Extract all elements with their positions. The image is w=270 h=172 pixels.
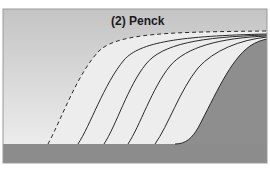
diagram-title: (2) Penck: [111, 14, 164, 28]
penck-slope-diagram: (2) Penck: [0, 0, 270, 172]
ground: [3, 144, 267, 163]
